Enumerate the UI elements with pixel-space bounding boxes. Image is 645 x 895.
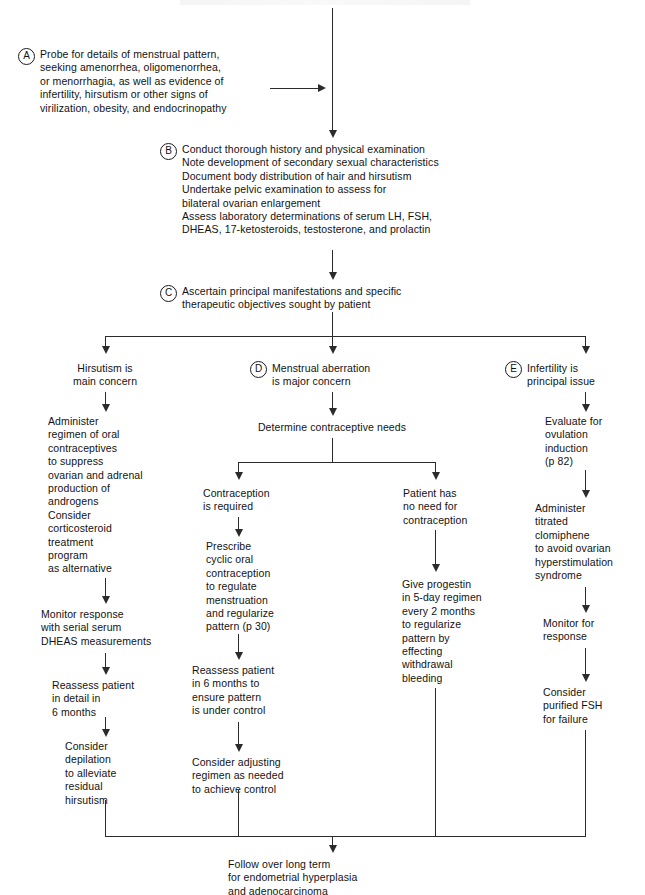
bottom-out-arrow <box>329 845 337 853</box>
mid-subsplit-left-arrow <box>235 472 243 480</box>
b-to-c-arrow <box>329 272 337 280</box>
marker-a: A <box>18 48 35 65</box>
bottom-bus-line <box>105 836 586 837</box>
mid-subsplit-right-arrow <box>432 472 440 480</box>
marker-b: B <box>160 143 177 160</box>
n-line-1 <box>435 530 436 568</box>
branch-hirsutism-label: Hirsutism is main concern <box>45 362 165 389</box>
node-a-connector-arrow <box>318 84 326 92</box>
split-right-arrow <box>582 346 590 354</box>
left-arrow-1 <box>102 404 110 412</box>
right-arrow-3 <box>582 605 590 613</box>
split-mid-arrow <box>329 346 337 354</box>
node-end-text: Follow over long term for endometrial hy… <box>228 858 458 895</box>
mid-subsplit-bus <box>238 462 435 463</box>
marker-e: E <box>505 361 522 378</box>
marker-c: C <box>160 285 177 302</box>
node-n1-text: Patient has no need for contraception <box>403 487 523 527</box>
node-r4-text: Consider purified FSH for failure <box>543 686 645 726</box>
split-bus-line <box>105 336 585 337</box>
node-n2-text: Give progestin in 5-day regimen every 2 … <box>402 578 532 685</box>
n-arrow-1 <box>432 564 440 572</box>
c-to-split-line <box>332 312 333 336</box>
node-c-text: Ascertain principal manifestations and s… <box>182 285 482 312</box>
node-r3-text: Monitor for response <box>543 617 645 644</box>
node-l2-text: Monitor response with serial serum DHEAS… <box>41 608 181 648</box>
left-arrow-2 <box>102 596 110 604</box>
n-line-final <box>435 688 436 836</box>
spine-top-line <box>332 8 333 132</box>
node-m3-text: Reassess patient in 6 months to ensure p… <box>192 664 332 718</box>
node-l1-text: Administer regimen of oral contraceptive… <box>48 415 178 576</box>
mid-subsplit-drop <box>332 438 333 462</box>
node-b-text: Conduct thorough history and physical ex… <box>182 143 512 237</box>
node-r1-text: Evaluate for ovulation induction (p 82) <box>545 415 645 469</box>
mid-line-final <box>238 790 239 836</box>
branch-menstrual-label: Menstrual aberration is major concern <box>272 362 422 389</box>
node-m2-text: Prescribe cyclic oral contraception to r… <box>206 540 326 634</box>
right-arrow-1 <box>582 404 590 412</box>
node-m1-text: Contraception is required <box>203 487 333 514</box>
node-m4-text: Consider adjusting regimen as needed to … <box>192 756 352 796</box>
left-arrow-3 <box>102 667 110 675</box>
mid-arrow-1 <box>329 408 337 416</box>
right-arrow-2 <box>582 490 590 498</box>
node-m0-text: Determine contraceptive needs <box>222 421 442 434</box>
node-l4-text: Consider depilation to alleviate residua… <box>65 740 175 807</box>
node-r2-text: Administer titrated clomiphene to avoid … <box>535 502 645 582</box>
split-left-arrow <box>102 346 110 354</box>
mid-arrow-2 <box>235 529 243 537</box>
top-cropped-text-artifact <box>180 0 470 5</box>
mid-arrow-3 <box>235 652 243 660</box>
branch-infertility-label: Infertility is principal issue <box>527 362 637 389</box>
spine-top-arrow <box>329 130 337 138</box>
left-line-final <box>105 800 106 836</box>
left-arrow-4 <box>102 729 110 737</box>
node-a-text: Probe for details of menstrual pattern, … <box>40 48 300 115</box>
mid-arrow-4 <box>235 744 243 752</box>
right-line-final <box>585 730 586 836</box>
marker-d: D <box>250 361 267 378</box>
node-a-connector-line <box>270 88 320 89</box>
node-l3-text: Reassess patient in detail in 6 months <box>52 679 182 719</box>
right-arrow-4 <box>582 674 590 682</box>
flowchart-canvas: A Probe for details of menstrual pattern… <box>0 0 645 895</box>
